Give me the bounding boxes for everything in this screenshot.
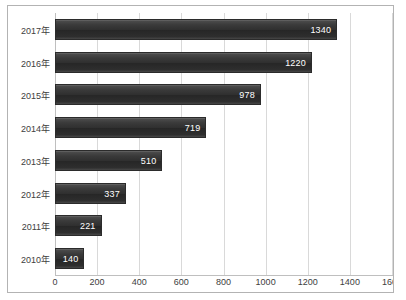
bar-value-label: 510: [141, 151, 157, 172]
bar-row: 1340: [55, 19, 392, 40]
bar-row: 140: [55, 248, 392, 269]
category-axis-label: 2016年: [7, 57, 50, 70]
value-axis-label: 1000: [256, 277, 276, 287]
bar-value-label: 1220: [285, 53, 306, 74]
gridline: [392, 13, 393, 275]
value-axis-label: 200: [90, 277, 105, 287]
category-axis-label: 2015年: [7, 89, 50, 102]
category-axis-label: 2017年: [7, 24, 50, 37]
chart-frame: 2017年2016年2015年2014年2013年2012年2011年2010年…: [7, 5, 394, 293]
value-axis-label: 600: [174, 277, 189, 287]
bar[interactable]: 1340: [55, 19, 337, 40]
bar[interactable]: 1220: [55, 52, 312, 73]
bar-row: 510: [55, 150, 392, 171]
plot-area: 13401220978719510337221140: [55, 13, 392, 275]
category-axis-label: 2012年: [7, 188, 50, 201]
bar-row: 719: [55, 117, 392, 138]
category-axis: 2017年2016年2015年2014年2013年2012年2011年2010年: [8, 13, 50, 275]
bar-value-label: 337: [104, 184, 120, 205]
bar[interactable]: 221: [55, 215, 102, 236]
bar-row: 337: [55, 183, 392, 204]
bar[interactable]: 719: [55, 117, 206, 138]
bar[interactable]: 978: [55, 84, 261, 105]
bar[interactable]: 510: [55, 150, 162, 171]
value-axis-label: 800: [216, 277, 231, 287]
category-axis-label: 2013年: [7, 155, 50, 168]
category-axis-label: 2011年: [7, 220, 50, 233]
bar-row: 221: [55, 215, 392, 236]
value-axis-label: 1600: [382, 277, 394, 287]
value-axis-label: 1200: [298, 277, 318, 287]
bar[interactable]: 337: [55, 183, 126, 204]
value-axis-line: [55, 275, 393, 276]
value-axis-label: 1400: [340, 277, 360, 287]
bar-value-label: 719: [185, 118, 201, 139]
category-axis-label: 2010年: [7, 253, 50, 266]
bar-row: 1220: [55, 52, 392, 73]
bar-value-label: 1340: [310, 20, 331, 41]
bar-value-label: 140: [63, 249, 79, 270]
category-axis-label: 2014年: [7, 122, 50, 135]
value-axis-label: 0: [52, 277, 57, 287]
bar-value-label: 978: [239, 85, 255, 106]
bar-row: 978: [55, 84, 392, 105]
value-axis-label: 400: [132, 277, 147, 287]
value-axis: 02004006008001000120014001600: [55, 277, 392, 291]
bar-value-label: 221: [80, 216, 96, 237]
bar[interactable]: 140: [55, 248, 84, 269]
